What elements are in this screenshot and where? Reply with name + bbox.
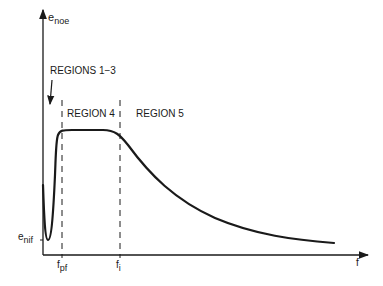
regions-1-3-label: REGIONS 1−3 (50, 65, 116, 76)
f-pf-label: fpf (57, 259, 68, 273)
region-5-label: REGION 5 (136, 108, 184, 119)
noise-curve (43, 130, 334, 243)
regions-arrow (50, 80, 52, 104)
region-4-label: REGION 4 (67, 108, 115, 119)
x-axis-label: f (356, 257, 359, 268)
e-nif-label: enif (18, 231, 34, 245)
noise-spectrum-diagram: enoe REGIONS 1−3 REGION 4 REGION 5 enif … (0, 0, 383, 286)
y-axis-label: enoe (48, 11, 69, 26)
f-i-label: fi (116, 259, 121, 273)
